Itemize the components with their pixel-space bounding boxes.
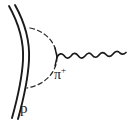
photon-wavy-line [57, 51, 126, 58]
vertex-stub [55, 48, 57, 66]
pion-loop-upper-arc [30, 28, 57, 57]
pion-label: π+ [54, 68, 66, 82]
pion-label-charge: + [61, 65, 66, 75]
pion-loop-lower-arc [27, 57, 57, 88]
proton-label: p [20, 101, 28, 116]
feynman-diagram-figure: p π+ [0, 0, 132, 124]
